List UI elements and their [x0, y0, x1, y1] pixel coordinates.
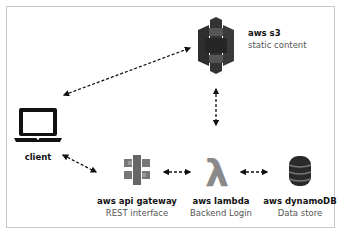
dynamodb-title: aws dynamoDB [263, 196, 336, 207]
aws-api-gateway-icon [124, 155, 150, 185]
api-gateway-title: aws api gateway [97, 196, 177, 207]
api-gateway-subtitle: REST interface [106, 208, 168, 219]
aws-dynamodb-icon [289, 156, 311, 186]
aws-lambda-icon: λ [205, 151, 229, 195]
s3-subtitle: static content [248, 40, 307, 51]
laptop-icon [14, 108, 62, 142]
edge-client-s3 [64, 48, 190, 95]
lambda-title: aws lambda [192, 196, 249, 207]
lambda-subtitle: Backend Login [190, 208, 252, 219]
edge-client-api-gateway [63, 155, 96, 172]
s3-title: aws s3 [248, 28, 281, 39]
client-title: client [25, 152, 52, 163]
dynamodb-subtitle: Data store [278, 208, 323, 219]
aws-s3-icon [198, 17, 234, 74]
